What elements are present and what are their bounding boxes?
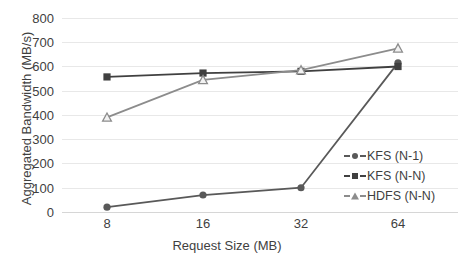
y-tick-label: 800 [14,12,60,25]
x-tick-label: 64 [391,216,405,231]
y-tick-label: 500 [14,85,60,98]
series-line [107,48,398,117]
circle-marker-icon [344,149,366,163]
legend-item-kfs-n-1[interactable]: KFS (N-1) [344,146,458,166]
triangle-marker-icon [344,189,366,203]
y-tick-label: 200 [14,157,60,170]
y-tick-label: 400 [14,109,60,122]
x-axis-tick-labels: 8 16 32 64 [62,216,458,236]
legend-label: HDFS (N-N) [367,189,435,203]
legend-item-hdfs-n-n[interactable]: HDFS (N-N) [344,186,458,206]
y-tick-label: 600 [14,60,60,73]
series-triangle [103,44,403,121]
y-axis-tick-labels: 800 700 600 500 400 300 200 100 0 [14,0,60,269]
x-tick-label: 8 [103,216,110,231]
axis-baseline [62,212,458,213]
data-point-circle [199,191,206,198]
data-point-triangle [394,44,403,52]
y-tick-label: 700 [14,36,60,49]
chart-container: Aggregated Bandwidth (MB/s) 800 700 600 … [0,0,458,269]
series-square [103,63,401,81]
square-marker-icon [344,169,366,183]
legend-item-kfs-n-n[interactable]: KFS (N-N) [344,166,458,186]
y-tick-label: 0 [14,206,60,219]
y-tick-label: 100 [14,182,60,195]
data-point-circle [297,184,304,191]
x-tick-label: 32 [294,216,308,231]
chart-legend: KFS (N-1) KFS (N-N) HDFS (N-N) [344,146,458,206]
data-point-circle [103,204,110,211]
legend-label: KFS (N-N) [367,169,425,183]
legend-label: KFS (N-1) [367,149,423,163]
data-point-square [103,73,110,80]
y-tick-label: 300 [14,133,60,146]
data-point-square [394,63,401,70]
x-tick-label: 16 [196,216,210,231]
x-axis-title: Request Size (MB) [62,238,392,253]
